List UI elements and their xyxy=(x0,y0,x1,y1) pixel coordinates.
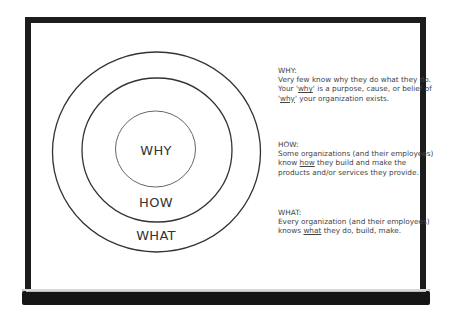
what-description: WHAT: Every organization (and their empl… xyxy=(278,208,438,236)
why-emphasis-1: why xyxy=(298,84,313,93)
why-text-3: ' your organization exists. xyxy=(295,94,389,103)
how-emphasis: how xyxy=(300,158,315,167)
how-heading: HOW: xyxy=(278,140,438,149)
what-heading: WHAT: xyxy=(278,208,438,217)
what-text-2: they do, build, make. xyxy=(321,226,401,235)
how-description: HOW: Some organizations (and their emplo… xyxy=(278,140,438,177)
why-emphasis-2: why xyxy=(280,94,295,103)
why-heading: WHY: xyxy=(278,66,438,75)
circle-label-why: WHY xyxy=(126,143,186,158)
circle-label-how: HOW xyxy=(126,195,186,210)
why-description: WHY: Very few know why they do what they… xyxy=(278,66,438,103)
what-emphasis: what xyxy=(303,226,321,235)
circle-label-what: WHAT xyxy=(116,228,196,243)
